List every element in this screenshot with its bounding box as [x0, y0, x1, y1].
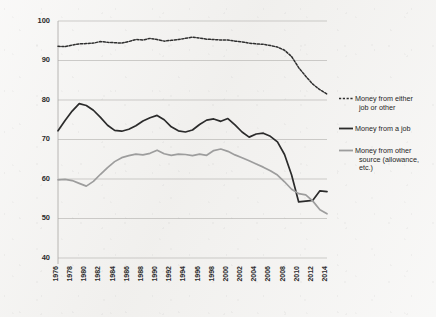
x-tick-label-1988: 1988 [137, 266, 144, 282]
legend-label-1-line-0: Money from a job [355, 124, 411, 133]
legend-label-2-line-2: etc.) [359, 163, 373, 172]
y-tick-label-80: 80 [42, 95, 50, 104]
y-tick-label-70: 70 [42, 134, 50, 143]
x-tick-label-1980: 1980 [80, 266, 87, 282]
x-tick-label-1978: 1978 [66, 266, 73, 282]
chart-canvas: 405060708090100 197619781980198219841986… [0, 0, 436, 317]
x-tick-label-1984: 1984 [109, 266, 116, 282]
x-tick-label-2010: 2010 [293, 266, 300, 282]
y-tick-label-50: 50 [42, 213, 50, 222]
x-axis-tick-labels: 1976197819801982198419861988199019921994… [52, 266, 328, 282]
x-tick-label-1986: 1986 [123, 266, 130, 282]
y-axis-tick-labels: 405060708090100 [37, 16, 50, 262]
x-tick-label-2000: 2000 [222, 266, 229, 282]
x-tick-label-2012: 2012 [307, 266, 314, 282]
legend-label-0-line-1: job or other [358, 103, 396, 112]
x-tick-label-1992: 1992 [165, 266, 172, 282]
x-tick-label-2004: 2004 [250, 266, 257, 282]
y-tick-label-60: 60 [42, 174, 50, 183]
x-tick-label-2002: 2002 [236, 266, 243, 282]
y-tick-label-40: 40 [42, 253, 50, 262]
data-series-layer [58, 37, 327, 214]
series-line-1 [58, 104, 327, 202]
y-tick-label-90: 90 [42, 55, 50, 64]
x-tick-label-1996: 1996 [194, 266, 201, 282]
x-tick-label-2006: 2006 [264, 266, 271, 282]
x-tick-label-2014: 2014 [321, 266, 328, 282]
gridlines [58, 21, 327, 258]
x-tick-label-1994: 1994 [179, 266, 186, 282]
x-tick-label-2008: 2008 [279, 266, 286, 282]
chart-legend: Money from eitherjob or otherMoney from … [339, 94, 419, 172]
x-tick-label-1976: 1976 [52, 266, 59, 282]
y-tick-label-100: 100 [37, 16, 50, 25]
x-tick-label-1990: 1990 [151, 266, 158, 282]
line-chart: 405060708090100 197619781980198219841986… [0, 0, 436, 317]
series-line-0 [58, 37, 327, 94]
x-tick-label-1998: 1998 [208, 266, 215, 282]
x-tick-label-1982: 1982 [94, 266, 101, 282]
